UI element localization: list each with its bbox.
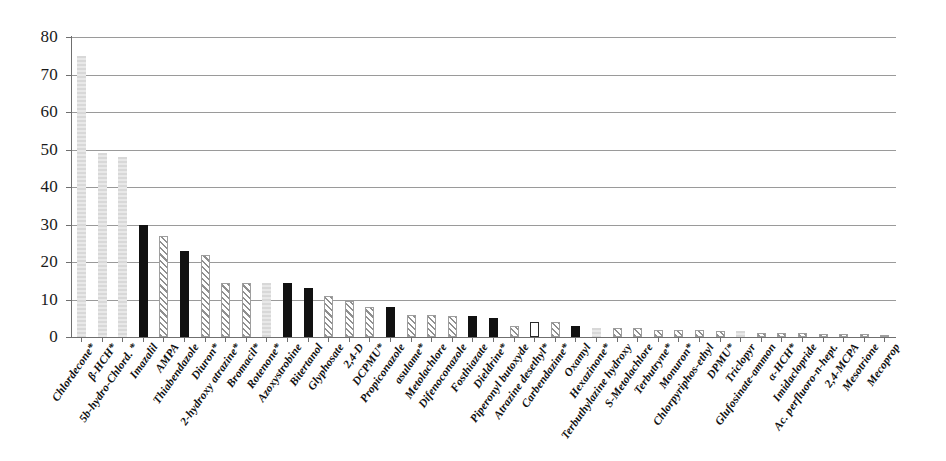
- bar[interactable]: [159, 236, 168, 337]
- bar[interactable]: [118, 157, 127, 337]
- bar-slot: [257, 37, 278, 337]
- bar-slot: [793, 37, 814, 337]
- bar-slot: [711, 37, 732, 337]
- x-axis-line: [71, 337, 896, 338]
- bar-slot: [93, 37, 114, 337]
- bar-slot: [72, 37, 93, 337]
- y-tick-label: 50: [18, 140, 58, 160]
- bar[interactable]: [201, 255, 210, 338]
- bar-slot: [134, 37, 155, 337]
- bar[interactable]: [262, 283, 271, 337]
- bar[interactable]: [77, 56, 86, 337]
- bar-slot: [505, 37, 526, 337]
- bar[interactable]: [180, 251, 189, 337]
- bar-slot: [237, 37, 258, 337]
- y-tick-label: 10: [18, 290, 58, 310]
- bar[interactable]: [448, 316, 457, 337]
- bar[interactable]: [530, 322, 539, 337]
- bar-slot: [319, 37, 340, 337]
- bar[interactable]: [674, 330, 683, 338]
- bar-slot: [381, 37, 402, 337]
- bar[interactable]: [139, 225, 148, 338]
- bar[interactable]: [345, 301, 354, 337]
- bar-slot: [422, 37, 443, 337]
- bar-slot: [299, 37, 320, 337]
- bar-slot: [834, 37, 855, 337]
- bar[interactable]: [613, 328, 622, 337]
- bar[interactable]: [427, 315, 436, 338]
- bar-slot: [546, 37, 567, 337]
- bar-slot: [340, 37, 361, 337]
- bar[interactable]: [489, 318, 498, 337]
- bar[interactable]: [551, 322, 560, 337]
- y-tick-label: 30: [18, 215, 58, 235]
- bar[interactable]: [242, 283, 251, 337]
- bar[interactable]: [98, 153, 107, 337]
- y-tick-label: 0: [18, 327, 58, 347]
- bar[interactable]: [654, 330, 663, 338]
- bar[interactable]: [407, 315, 416, 338]
- bar-slot: [608, 37, 629, 337]
- bar-slot: [402, 37, 423, 337]
- bar-slot: [772, 37, 793, 337]
- bar-slot: [566, 37, 587, 337]
- x-axis-labels: Chlordecone*β-HCH*5b-hydro-Chlord. *Imaz…: [72, 341, 896, 461]
- bar[interactable]: [468, 316, 477, 337]
- bar-slot: [196, 37, 217, 337]
- bar[interactable]: [633, 328, 642, 337]
- bar[interactable]: [365, 307, 374, 337]
- bar[interactable]: [304, 288, 313, 337]
- bar-slot: [628, 37, 649, 337]
- bar-slot: [752, 37, 773, 337]
- bar-slot: [875, 37, 896, 337]
- y-tick-label: 80: [18, 27, 58, 47]
- bar-slot: [175, 37, 196, 337]
- bar-slot: [484, 37, 505, 337]
- bar-series: [72, 37, 896, 337]
- bar[interactable]: [221, 283, 230, 337]
- bar[interactable]: [386, 307, 395, 337]
- bar-slot: [216, 37, 237, 337]
- bar-slot: [649, 37, 670, 337]
- bar-slot: [443, 37, 464, 337]
- bar-slot: [113, 37, 134, 337]
- bar-slot: [690, 37, 711, 337]
- bar-slot: [814, 37, 835, 337]
- bar-slot: [525, 37, 546, 337]
- bar-slot: [855, 37, 876, 337]
- bar-slot: [463, 37, 484, 337]
- bar-slot: [278, 37, 299, 337]
- bar[interactable]: [571, 326, 580, 337]
- y-tick-label: 20: [18, 252, 58, 272]
- y-tick-label: 40: [18, 177, 58, 197]
- bar[interactable]: [510, 326, 519, 337]
- bar-slot: [154, 37, 175, 337]
- y-tick-label: 60: [18, 102, 58, 122]
- bar[interactable]: [592, 328, 601, 337]
- bar-slot: [587, 37, 608, 337]
- bar[interactable]: [324, 296, 333, 337]
- y-tick-mark: [66, 337, 72, 338]
- y-tick-label: 70: [18, 65, 58, 85]
- bar-slot: [669, 37, 690, 337]
- bar[interactable]: [695, 330, 704, 338]
- bar[interactable]: [283, 283, 292, 337]
- bar-slot: [360, 37, 381, 337]
- bar-slot: [731, 37, 752, 337]
- bar-chart: 01020304050607080 Chlordecone*β-HCH*5b-h…: [0, 0, 946, 461]
